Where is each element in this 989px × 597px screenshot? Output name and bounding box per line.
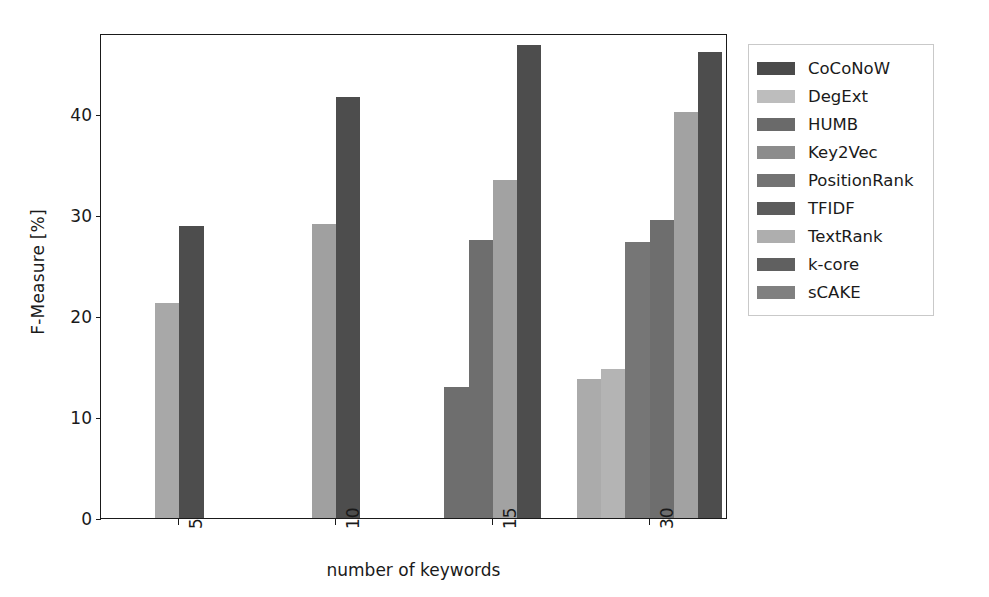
x-tick-label: 15	[500, 507, 520, 529]
y-tick-label: 30	[52, 206, 92, 226]
y-tick-label: 40	[52, 105, 92, 125]
legend-swatch-icon	[757, 146, 795, 159]
bar	[444, 387, 468, 518]
plot-area	[100, 34, 727, 519]
bar	[517, 45, 541, 518]
y-tick-label: 20	[52, 307, 92, 327]
x-axis-label: number of keywords	[100, 560, 727, 580]
bar	[469, 240, 493, 518]
y-tick-mark	[96, 519, 101, 520]
bar	[493, 180, 517, 518]
legend-item[interactable]: DegExt	[757, 82, 925, 110]
bar	[650, 220, 674, 518]
legend-item[interactable]: TFIDF	[757, 194, 925, 222]
legend-swatch-icon	[757, 62, 795, 75]
legend-label: CoCoNoW	[808, 59, 890, 78]
legend-item[interactable]: sCAKE	[757, 278, 925, 306]
x-tick-label: 10	[343, 507, 363, 529]
legend-label: TextRank	[808, 227, 883, 246]
bar	[577, 379, 601, 518]
bar	[601, 369, 625, 518]
y-axis-label: F-Measure [%]	[28, 172, 48, 372]
legend-swatch-icon	[757, 202, 795, 215]
y-tick-label: 10	[52, 408, 92, 428]
bar	[336, 97, 360, 518]
y-tick-label: 0	[52, 509, 92, 529]
legend-swatch-icon	[757, 90, 795, 103]
bar	[179, 226, 203, 518]
x-tick-label: 5	[186, 518, 206, 529]
x-tick-mark	[178, 519, 179, 525]
legend-swatch-icon	[757, 230, 795, 243]
legend-label: PositionRank	[808, 171, 913, 190]
legend-label: Key2Vec	[808, 143, 878, 162]
legend-swatch-icon	[757, 174, 795, 187]
bar	[312, 224, 336, 518]
legend-swatch-icon	[757, 258, 795, 271]
x-tick-mark	[492, 519, 493, 525]
legend-item[interactable]: CoCoNoW	[757, 54, 925, 82]
legend-label: TFIDF	[808, 199, 855, 218]
legend-item[interactable]: Key2Vec	[757, 138, 925, 166]
figure-canvas: F-Measure [%] 010203040 5101530 number o…	[0, 0, 989, 597]
legend-label: HUMB	[808, 115, 858, 134]
legend-item[interactable]: k-core	[757, 250, 925, 278]
x-tick-mark	[649, 519, 650, 525]
x-tick-label: 30	[657, 507, 677, 529]
legend-item[interactable]: PositionRank	[757, 166, 925, 194]
y-tick-label-group: 010203040	[52, 0, 92, 597]
bar	[625, 242, 649, 518]
bar	[698, 52, 722, 518]
x-tick-mark	[335, 519, 336, 525]
legend: CoCoNoWDegExtHUMBKey2VecPositionRankTFID…	[748, 44, 934, 316]
legend-swatch-icon	[757, 118, 795, 131]
bar	[155, 303, 179, 518]
legend-label: DegExt	[808, 87, 868, 106]
legend-item[interactable]: HUMB	[757, 110, 925, 138]
legend-item[interactable]: TextRank	[757, 222, 925, 250]
bar-group-container	[101, 35, 726, 518]
bar	[674, 112, 698, 518]
legend-swatch-icon	[757, 286, 795, 299]
legend-label: k-core	[808, 255, 859, 274]
legend-label: sCAKE	[808, 283, 861, 302]
